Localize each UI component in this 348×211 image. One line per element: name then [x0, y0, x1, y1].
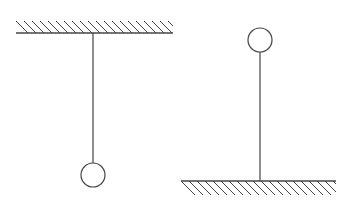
- floor-hatching: [181, 181, 336, 195]
- hatch-stroke: [277, 181, 291, 195]
- hanging-pendulum: [16, 21, 173, 187]
- hatch-stroke: [168, 21, 173, 26]
- hatch-stroke: [205, 181, 219, 195]
- hatch-stroke: [245, 181, 259, 195]
- hatch-stroke: [237, 181, 251, 195]
- hatch-stroke: [317, 181, 331, 195]
- ceiling-hatching: [16, 21, 173, 33]
- hatch-stroke: [261, 181, 275, 195]
- hatch-stroke: [189, 181, 203, 195]
- hatch-stroke: [213, 181, 227, 195]
- hatch-stroke: [197, 181, 211, 195]
- pendulum-bob: [81, 163, 105, 187]
- pendulum-diagram: [0, 0, 348, 211]
- hatch-stroke: [269, 181, 283, 195]
- inverted-pendulum: [181, 28, 336, 195]
- hatch-stroke: [293, 181, 307, 195]
- hatch-stroke: [253, 181, 267, 195]
- hatch-stroke: [181, 181, 195, 195]
- inverted-pendulum-bob: [248, 28, 272, 52]
- hatch-stroke: [301, 181, 315, 195]
- hatch-stroke: [309, 181, 323, 195]
- hatch-stroke: [285, 181, 299, 195]
- hatch-stroke: [229, 181, 243, 195]
- hatch-stroke: [221, 181, 235, 195]
